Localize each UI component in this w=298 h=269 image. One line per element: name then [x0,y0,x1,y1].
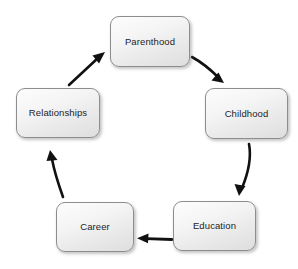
node-label-career: Career [80,222,110,232]
node-relationships[interactable]: Relationships [16,88,100,138]
arrow-relationships-to-parenthood [69,52,105,85]
node-label-childhood: Childhood [225,109,269,119]
arrow-childhood-to-education [235,144,250,196]
node-childhood[interactable]: Childhood [205,88,288,139]
arrow-parenthood-to-childhood [192,57,224,83]
node-label-relationships: Relationships [29,108,87,118]
node-career[interactable]: Career [56,202,134,252]
node-education[interactable]: Education [173,201,256,251]
cycle-diagram: Parenthood Childhood Education Career Re… [0,0,298,269]
arrow-education-to-career [137,234,172,244]
arrow-career-to-relationships [47,150,64,197]
node-label-parenthood: Parenthood [125,37,175,47]
node-parenthood[interactable]: Parenthood [110,16,190,67]
node-label-education: Education [193,221,236,231]
